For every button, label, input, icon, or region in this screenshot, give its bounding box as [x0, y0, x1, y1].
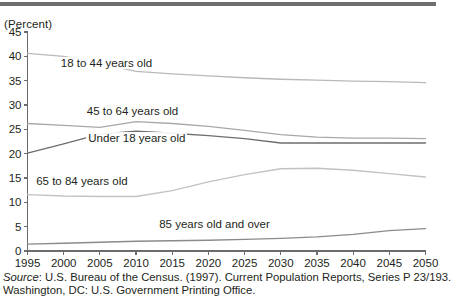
source-line-1-text: : U.S. Bureau of the Census. (1997). Cur…: [39, 271, 451, 283]
y-axis-tick-label: 10: [0, 196, 22, 208]
x-axis-tick-label: 2030: [261, 257, 301, 269]
series-label-3: Under 18 years old: [86, 132, 187, 144]
x-axis-tick-label: 2020: [188, 257, 228, 269]
line-chart: 051015202530354045 199520002005201020152…: [0, 30, 436, 258]
y-axis-tick-label: 5: [0, 221, 22, 233]
y-axis-tick-label: 25: [0, 123, 22, 135]
series-label-4: 65 to 84 years old: [34, 175, 129, 187]
x-axis-tick-label: 2000: [44, 257, 84, 269]
x-axis-tick-label: 1995: [8, 257, 48, 269]
series-label-1: 18 to 44 years old: [59, 57, 154, 69]
y-axis-tick-label: 20: [0, 148, 22, 160]
x-axis-tick-label: 2045: [369, 257, 409, 269]
x-axis-tick-label: 2005: [80, 257, 120, 269]
x-axis-tick-label: 2040: [333, 257, 373, 269]
y-axis-tick-label: 0: [0, 245, 22, 257]
series-label-2: 45 to 64 years old: [85, 105, 180, 117]
x-axis-tick-label: 2015: [152, 257, 192, 269]
series-line-5: [28, 229, 426, 245]
x-axis-tick-label: 2010: [116, 257, 156, 269]
chart-series: [28, 53, 426, 244]
top-divider-rule: [0, 2, 436, 6]
x-axis-tick-label: 2025: [225, 257, 265, 269]
y-axis-tick-label: 40: [0, 50, 22, 62]
y-axis-tick-label: 35: [0, 75, 22, 87]
y-axis-tick-label: 15: [0, 172, 22, 184]
source-line-1: Source: U.S. Bureau of the Census. (1997…: [3, 271, 433, 284]
source-line-2: Washington, DC: U.S. Government Printing…: [3, 284, 433, 296]
y-axis-tick-label: 45: [0, 26, 22, 38]
source-note: Source: U.S. Bureau of the Census. (1997…: [3, 271, 433, 296]
series-label-5: 85 years old and over: [157, 218, 272, 230]
y-axis-tick-label: 30: [0, 99, 22, 111]
x-axis-tick-label: 2035: [297, 257, 337, 269]
x-axis-tick-label: 2050: [406, 257, 446, 269]
source-label: Source: [3, 271, 39, 283]
